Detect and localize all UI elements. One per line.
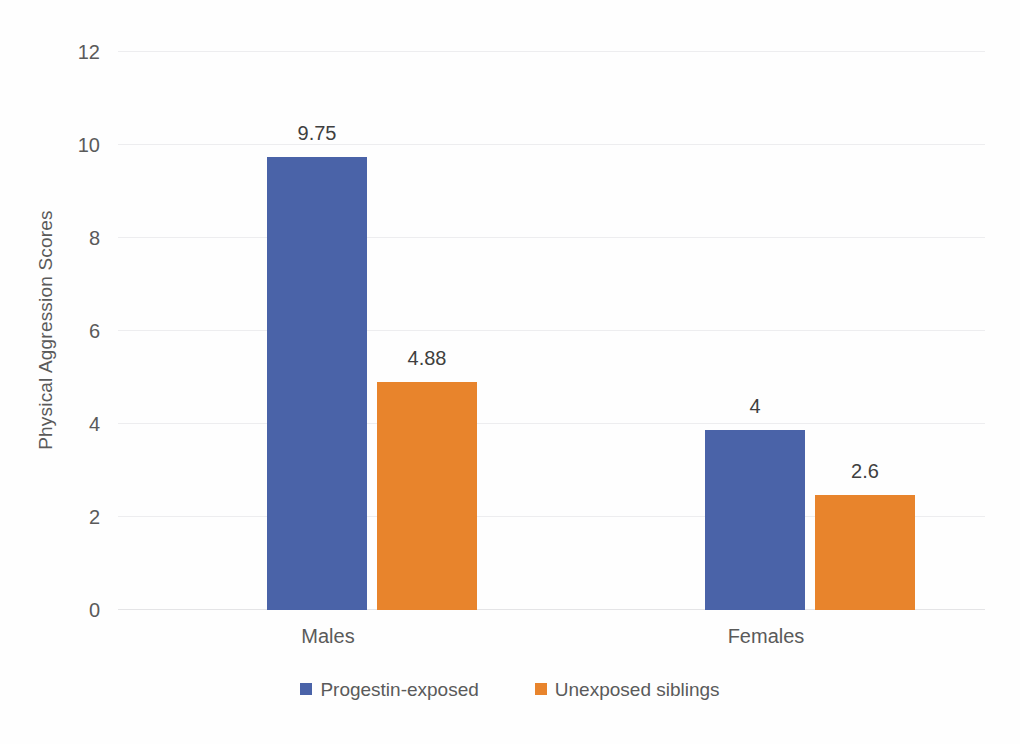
legend-item-label: Unexposed siblings [555, 680, 720, 699]
bar-males-progestin-exposed[interactable] [267, 157, 367, 610]
bar-value-label: 2.6 [815, 461, 915, 481]
y-axis-tick-label: 6 [40, 321, 100, 341]
bar-chart: Physical Aggression Scores 024681012 9.7… [0, 0, 1020, 744]
y-axis-tick-label: 2 [40, 507, 100, 527]
bar-value-label: 4 [705, 396, 805, 416]
x-axis-category-labels: MalesFemales [118, 618, 985, 652]
x-axis-category-label: Males [248, 626, 408, 646]
bar-females-unexposed-siblings[interactable] [815, 495, 915, 610]
legend-item[interactable]: Unexposed siblings [535, 680, 720, 699]
gridline [118, 237, 985, 238]
chart-legend: Progestin-exposedUnexposed siblings [0, 676, 1020, 702]
y-axis-tick-label: 8 [40, 228, 100, 248]
gridline [118, 51, 985, 52]
bar-females-progestin-exposed[interactable] [705, 430, 805, 610]
bar-value-label: 9.75 [267, 123, 367, 143]
legend-item-label: Progestin-exposed [320, 680, 478, 699]
gridline [118, 423, 985, 424]
y-axis-tick-label: 10 [40, 135, 100, 155]
legend-item[interactable]: Progestin-exposed [300, 680, 478, 699]
gridline [118, 330, 985, 331]
y-axis-tick-label: 12 [40, 42, 100, 62]
y-axis-tick-label: 4 [40, 414, 100, 434]
square-swatch-icon [300, 683, 312, 695]
x-axis-category-label: Females [686, 626, 846, 646]
gridline [118, 144, 985, 145]
plot-area: 9.754.8842.6 [118, 52, 985, 610]
y-axis-tick-label: 0 [40, 600, 100, 620]
square-swatch-icon [535, 683, 547, 695]
bar-males-unexposed-siblings[interactable] [377, 382, 477, 610]
y-axis-tick-labels: 024681012 [34, 52, 100, 610]
bar-value-label: 4.88 [377, 348, 477, 368]
